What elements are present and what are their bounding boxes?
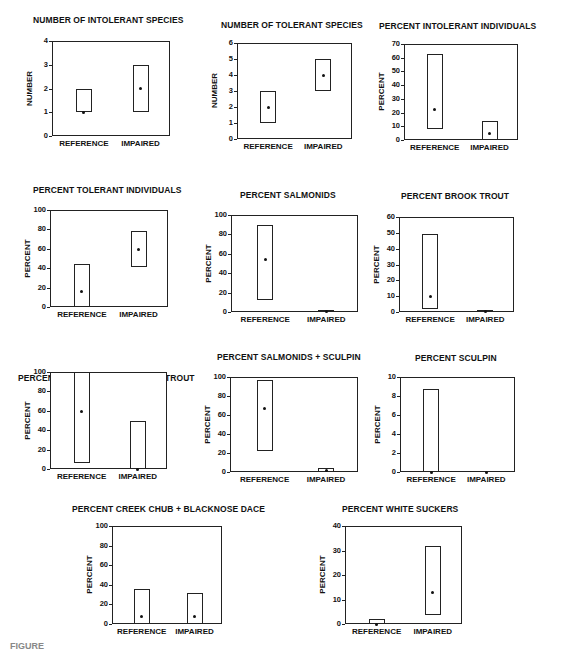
x-category-label: REFERENCE: [57, 472, 106, 481]
y-tick-label: 20: [380, 108, 400, 117]
y-tick-mark: [234, 91, 237, 92]
y-tick-mark: [47, 229, 50, 230]
y-tick-mark: [401, 58, 404, 59]
x-category-label: REFERENCE: [57, 310, 106, 319]
y-tick-label: 30: [380, 94, 400, 103]
y-tick-mark: [227, 415, 230, 416]
y-axis-label: PERCENT: [204, 238, 213, 288]
y-tick-label: 0: [321, 619, 341, 628]
y-tick-label: 60: [26, 406, 46, 415]
y-tick-mark: [342, 575, 345, 576]
x-category-label: IMPAIRED: [119, 310, 158, 319]
median-point: [322, 74, 325, 77]
median-point: [431, 591, 434, 594]
y-tick-mark: [396, 249, 399, 250]
y-tick-mark: [47, 450, 50, 451]
y-tick-mark: [401, 44, 404, 45]
y-tick-label: 20: [206, 448, 226, 457]
y-tick-label: 40: [207, 268, 227, 277]
median-point: [136, 468, 139, 471]
y-tick-mark: [234, 123, 237, 124]
y-axis-label: PERCENT: [85, 550, 94, 600]
y-tick-mark: [49, 136, 52, 137]
chart-title: PERCENT TOLERANT INDIVIDUALS: [33, 185, 182, 195]
y-tick-label: 20: [26, 283, 46, 292]
y-axis-label: PERCENT: [203, 399, 212, 449]
y-tick-label: 40: [26, 425, 46, 434]
median-point: [193, 615, 196, 618]
y-tick-label: 0: [28, 131, 48, 140]
y-tick-label: 60: [26, 244, 46, 253]
range-box: [74, 264, 90, 307]
y-tick-label: 6: [213, 38, 233, 47]
y-tick-label: 20: [88, 599, 108, 608]
y-tick-label: 50: [380, 66, 400, 75]
range-box: [74, 372, 90, 463]
y-tick-mark: [396, 280, 399, 281]
y-axis-label: PERCENT: [23, 233, 32, 283]
y-tick-label: 40: [380, 80, 400, 89]
range-box: [482, 121, 498, 140]
y-tick-label: 5: [213, 54, 233, 63]
y-tick-label: 2: [376, 448, 396, 457]
x-category-label: IMPAIRED: [304, 142, 343, 151]
y-tick-label: 60: [380, 53, 400, 62]
y-tick-label: 30: [375, 260, 395, 269]
chart-title: PERCENT SCULPIN: [415, 353, 497, 363]
y-tick-mark: [228, 273, 231, 274]
y-tick-label: 3: [213, 86, 233, 95]
y-tick-label: 20: [321, 570, 341, 579]
y-tick-mark: [397, 415, 400, 416]
y-tick-label: 100: [206, 372, 226, 381]
median-point: [139, 87, 142, 90]
plot-area: [230, 377, 358, 472]
y-tick-label: 1: [213, 118, 233, 127]
y-tick-mark: [228, 215, 231, 216]
y-tick-mark: [227, 434, 230, 435]
y-tick-label: 10: [380, 121, 400, 130]
x-category-label: IMPAIRED: [470, 143, 509, 152]
y-tick-label: 60: [206, 410, 226, 419]
y-tick-mark: [228, 234, 231, 235]
y-tick-label: 10: [375, 291, 395, 300]
y-tick-mark: [342, 526, 345, 527]
y-tick-mark: [47, 307, 50, 308]
median-point: [140, 615, 143, 618]
y-tick-mark: [234, 107, 237, 108]
y-tick-label: 0: [88, 619, 108, 628]
y-tick-label: 0: [207, 307, 227, 316]
y-tick-label: 0: [206, 467, 226, 476]
x-category-label: IMPAIRED: [413, 627, 452, 636]
y-tick-label: 80: [26, 224, 46, 233]
y-tick-label: 60: [207, 249, 227, 258]
y-tick-label: 80: [88, 541, 108, 550]
y-tick-label: 50: [375, 228, 395, 237]
y-tick-label: 4: [376, 429, 396, 438]
chart-title: PERCENT WHITE SUCKERS: [342, 504, 458, 514]
x-category-label: REFERENCE: [352, 627, 401, 636]
y-tick-mark: [396, 312, 399, 313]
x-category-label: REFERENCE: [240, 475, 289, 484]
y-tick-label: 40: [206, 429, 226, 438]
y-tick-mark: [227, 453, 230, 454]
median-point: [325, 310, 328, 313]
y-tick-label: 40: [88, 580, 108, 589]
y-tick-mark: [401, 126, 404, 127]
y-tick-mark: [342, 624, 345, 625]
figure-caption: FIGURE: [10, 641, 44, 651]
y-tick-label: 100: [88, 521, 108, 530]
y-tick-mark: [47, 469, 50, 470]
y-tick-label: 8: [376, 391, 396, 400]
y-tick-mark: [401, 71, 404, 72]
plot-area: [237, 43, 352, 139]
chart-title: NUMBER OF TOLERANT SPECIES: [221, 20, 363, 30]
y-tick-label: 6: [376, 410, 396, 419]
y-tick-mark: [227, 472, 230, 473]
x-category-label: REFERENCE: [410, 143, 459, 152]
range-box: [257, 225, 273, 301]
y-tick-mark: [397, 472, 400, 473]
y-tick-label: 0: [380, 135, 400, 144]
plot-area: [50, 210, 168, 307]
x-category-label: REFERENCE: [59, 139, 108, 148]
range-box: [427, 54, 443, 129]
